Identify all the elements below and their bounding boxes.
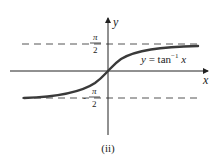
arctan-graph: y x π 2 - π 2 y = tan−1 x (ii)	[0, 0, 221, 164]
x-axis-label: x	[202, 73, 209, 87]
svg-text:π: π	[93, 32, 98, 42]
y-axis-label: y	[112, 15, 119, 29]
curve-equation-label: y = tan−1 x	[140, 52, 186, 65]
svg-text:-: -	[83, 93, 86, 103]
svg-text:2: 2	[92, 99, 97, 109]
equation-function: = tan	[146, 53, 172, 65]
svg-text:2: 2	[93, 45, 98, 55]
svg-text:π: π	[92, 86, 97, 96]
figure-caption: (ii)	[101, 142, 115, 155]
equation-argument: x	[179, 53, 187, 65]
